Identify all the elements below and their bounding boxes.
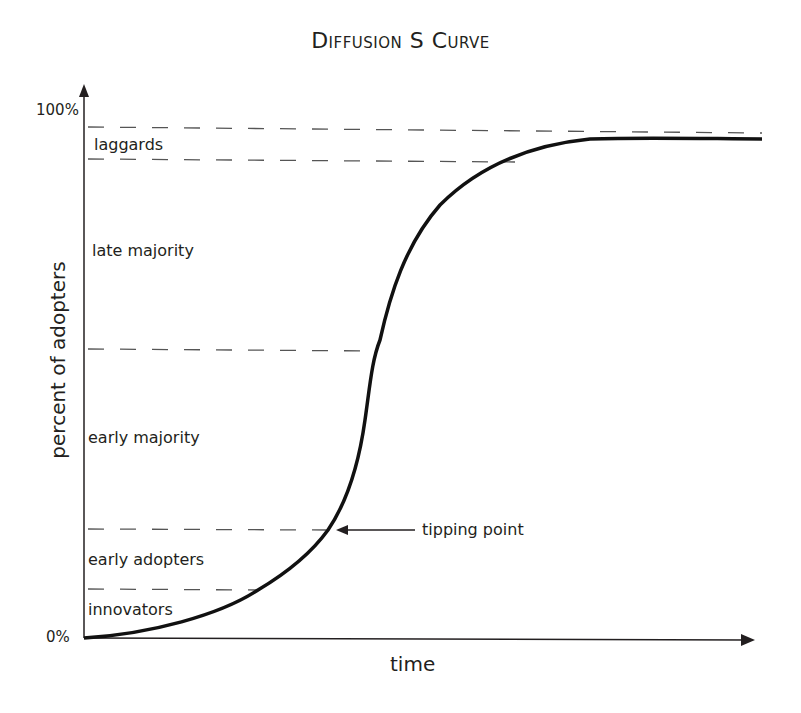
boundary-100 bbox=[88, 127, 762, 133]
y-tick-100: 100% bbox=[36, 101, 79, 119]
y-axis-arrow-icon bbox=[79, 84, 89, 97]
boundary-early-majority bbox=[88, 529, 328, 530]
boundary-laggards bbox=[88, 159, 515, 162]
segment-early-majority: early majority bbox=[88, 428, 200, 447]
y-tick-0: 0% bbox=[46, 628, 70, 646]
y-axis-label: percent of adopters bbox=[46, 250, 70, 470]
tipping-point-arrowhead-icon bbox=[336, 525, 348, 535]
segment-early-adopters: early adopters bbox=[88, 550, 204, 569]
segment-late-majority: late majority bbox=[92, 241, 194, 260]
boundary-late-majority bbox=[88, 349, 378, 351]
segment-innovators: innovators bbox=[88, 600, 173, 619]
x-axis-arrow-icon bbox=[741, 634, 755, 646]
x-axis bbox=[84, 638, 745, 640]
segment-laggards: laggards bbox=[94, 135, 163, 154]
tipping-point-label: tipping point bbox=[422, 520, 524, 539]
x-axis-label: time bbox=[390, 652, 435, 676]
boundary-innovators bbox=[88, 589, 258, 590]
